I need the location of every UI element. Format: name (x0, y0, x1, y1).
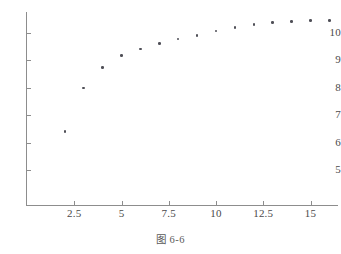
data-point (328, 19, 331, 22)
scatter-plot: 5678910 2.557.51012.515 (0, 0, 341, 215)
x-tick-mark (216, 201, 217, 205)
x-tick-mark (263, 201, 264, 205)
y-tick-mark (27, 115, 31, 116)
y-tick-mark (27, 33, 31, 34)
data-point (253, 23, 256, 26)
figure-container: 5678910 2.557.51012.515 图 6-6 (0, 0, 341, 254)
y-tick-mark (27, 143, 31, 144)
x-tick-label: 2.5 (54, 208, 94, 219)
y-tick-mark (27, 170, 31, 171)
x-tick-label: 5 (102, 208, 142, 219)
x-tick-mark (169, 201, 170, 205)
data-point (196, 34, 199, 37)
y-tick-label: 6 (319, 137, 341, 148)
y-tick-mark (27, 60, 31, 61)
data-point (215, 30, 218, 33)
x-axis-line (26, 205, 338, 206)
data-point (64, 130, 67, 133)
data-point (120, 54, 123, 57)
x-tick-mark (122, 201, 123, 205)
x-tick-mark (311, 201, 312, 205)
y-tick-label: 8 (319, 82, 341, 93)
data-point (271, 21, 274, 24)
data-point (177, 38, 180, 41)
data-point (139, 48, 142, 51)
x-tick-label: 10 (196, 208, 236, 219)
figure-caption: 图 6-6 (0, 231, 341, 246)
data-point (309, 19, 312, 22)
x-tick-label: 7.5 (149, 208, 189, 219)
y-axis-line (26, 12, 27, 206)
y-tick-mark (27, 88, 31, 89)
y-tick-label: 7 (319, 109, 341, 120)
x-tick-mark (74, 201, 75, 205)
x-tick-label: 15 (291, 208, 331, 219)
data-point (290, 20, 293, 23)
y-tick-label: 9 (319, 54, 341, 65)
data-point (158, 42, 161, 45)
y-tick-label: 5 (319, 164, 341, 175)
y-tick-label: 10 (319, 27, 341, 38)
data-point (234, 26, 237, 29)
data-point (101, 66, 104, 69)
data-point (82, 87, 85, 90)
x-tick-label: 12.5 (243, 208, 283, 219)
